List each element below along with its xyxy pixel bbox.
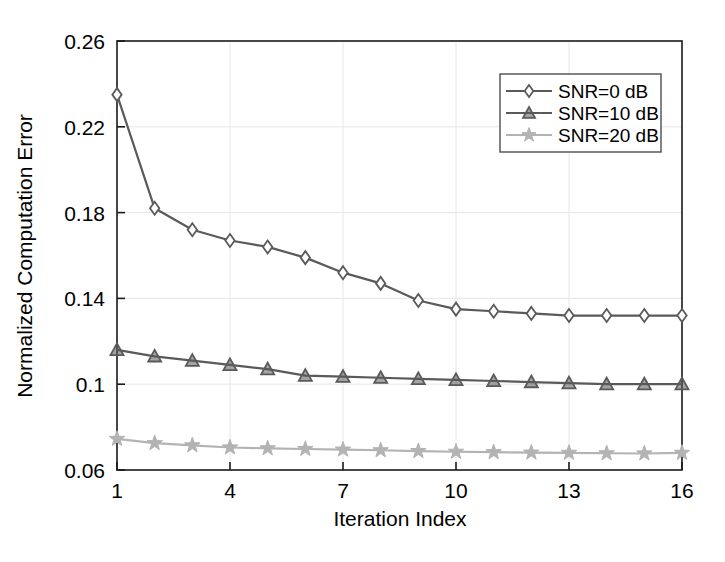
x-tick-label: 13	[557, 479, 580, 502]
x-tick-label: 16	[670, 479, 693, 502]
y-tick-label: 0.06	[64, 459, 105, 482]
x-tick-label: 7	[337, 479, 349, 502]
y-tick-label: 0.14	[64, 287, 105, 310]
y-tick-label: 0.1	[76, 373, 105, 396]
chart-figure: 147101316 0.060.10.140.180.220.26 Iterat…	[0, 0, 725, 562]
x-axis-title: Iteration Index	[333, 507, 467, 530]
x-tick-label: 4	[224, 479, 236, 502]
y-axis-title: Normalized Computation Error	[13, 114, 36, 398]
y-tick-label: 0.26	[64, 30, 105, 53]
x-tick-label: 1	[111, 479, 123, 502]
legend-label: SNR=10 dB	[558, 103, 659, 124]
x-tick-label: 10	[444, 479, 467, 502]
y-tick-label: 0.22	[64, 116, 105, 139]
legend-label: SNR=0 dB	[558, 81, 648, 102]
legend-label: SNR=20 dB	[558, 125, 659, 146]
chart-legend[interactable]: SNR=0 dBSNR=10 dBSNR=20 dB	[500, 74, 661, 152]
y-tick-label: 0.18	[64, 202, 105, 225]
